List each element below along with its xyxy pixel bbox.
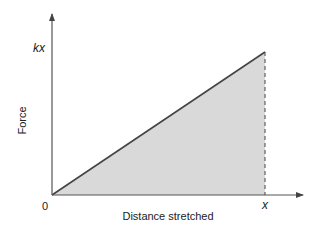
x-tick-x: x (262, 199, 268, 211)
chart-canvas (0, 0, 318, 233)
y-axis-label: Force (17, 101, 28, 141)
y-tick-kx: kx (33, 42, 45, 54)
x-axis-label: Distance stretched (112, 211, 224, 222)
x-tick-origin: 0 (42, 201, 48, 212)
